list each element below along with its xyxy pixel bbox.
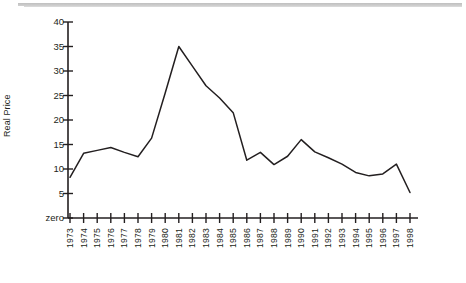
plot-area (0, 0, 466, 283)
data-line-real-price (70, 47, 410, 193)
chart-figure: Real Price 403530252015105zero 197319741… (0, 0, 466, 283)
